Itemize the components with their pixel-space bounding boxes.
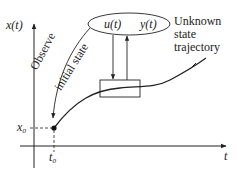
y-axis-label: x(t) <box>6 19 23 31</box>
x0-label: x₀ <box>17 121 27 133</box>
observability-diagram: x(t) t x₀ t₀ u(t) y(t) Observe initial s… <box>0 0 238 172</box>
input-label: u(t) <box>104 18 121 30</box>
trajectory-label-line1: Unknown <box>174 15 221 27</box>
output-label: y(t) <box>140 18 157 30</box>
t0-label: t₀ <box>49 151 57 163</box>
x-axis-label: t <box>224 150 227 162</box>
trajectory-label-line2: state <box>174 28 196 40</box>
measurement-ellipse <box>88 13 170 35</box>
initial-state-point <box>51 125 56 130</box>
trajectory-label-line3: trajectory <box>174 41 220 53</box>
